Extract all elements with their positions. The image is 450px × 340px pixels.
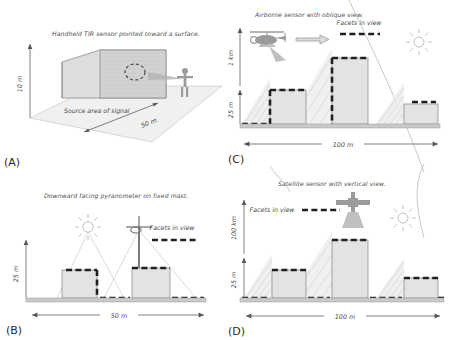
figure-panel-grid: 10 m xyxy=(0,0,450,340)
axis-h-arrow-left-b xyxy=(32,313,37,318)
axis-label-vertical-upper-c: 1 km xyxy=(227,50,235,66)
sun-icon-b xyxy=(75,214,101,240)
building-1-b xyxy=(62,270,97,298)
axis-h-arrow-left-d xyxy=(246,314,251,319)
axis-label-horizontal-d: 100 m xyxy=(335,313,355,321)
panel-title-d: Satellite sensor with vertical view. xyxy=(278,180,386,187)
axis-vertical-arrow-a xyxy=(28,44,33,49)
axis-label-vertical-lower-d: 25 m xyxy=(230,272,238,288)
panel-title-a: Handheld TIR sensor pointed toward a sur… xyxy=(52,30,200,38)
panel-b: Downward facing pyranometer on fixed mas… xyxy=(0,170,228,340)
sun-icon-c xyxy=(406,29,432,55)
legend-label-b: Facets in view xyxy=(150,224,196,231)
building-3-c xyxy=(404,104,438,124)
panel-title-c: Airborne sensor with oblique view. xyxy=(254,11,363,19)
axis-label-horizontal-c: 100 m xyxy=(333,141,353,149)
axis-label-vertical-lower-c: 25 m xyxy=(227,102,235,118)
axis-label-vertical-b: 25 m xyxy=(12,266,20,282)
sun-icon-d xyxy=(390,205,416,231)
legend-label-d: Facets in view xyxy=(250,206,296,213)
panel-tag-d: (D) xyxy=(228,325,245,338)
source-label-line1-a: Source area of signal xyxy=(64,107,130,115)
axis-upper-arrow-c xyxy=(238,28,243,33)
helicopter-icon xyxy=(250,32,286,46)
panel-tag-b: (B) xyxy=(6,324,22,337)
panel-title-b: Downward facing pyranometer on fixed mas… xyxy=(44,192,188,200)
axis-label-vertical-a: 10 m xyxy=(16,76,24,92)
ground-d xyxy=(240,298,444,302)
swoosh-right-icon-d xyxy=(417,164,424,238)
swoosh-left-icon-d xyxy=(270,166,290,192)
building-2-b xyxy=(132,268,170,298)
axis-label-horizontal-b: 50 m xyxy=(111,312,127,320)
panel-a: 10 m xyxy=(0,0,228,172)
axis-h-arrow-right-d xyxy=(435,314,440,319)
flight-arrow-icon xyxy=(296,35,329,44)
axis-lower-arrow-d xyxy=(242,258,247,263)
view-cone-icon-c xyxy=(269,46,286,62)
shadow-1-c xyxy=(242,78,270,124)
axis-upper-arrow-d xyxy=(242,200,247,205)
axis-h-arrow-left-c xyxy=(244,142,249,147)
ground-b xyxy=(26,298,206,302)
satellite-icon xyxy=(336,192,370,212)
ground-c xyxy=(240,124,440,128)
panel-d: Satellite sensor with vertical view. xyxy=(228,170,450,340)
building-2-c xyxy=(332,58,368,124)
building-2-d xyxy=(332,240,368,298)
axis-h-arrow-right-b xyxy=(199,313,204,318)
panel-tag-a: (A) xyxy=(4,156,20,169)
axis-vertical-arrow-b xyxy=(24,240,29,245)
shadow-3-d xyxy=(376,258,404,298)
building-1-c xyxy=(270,90,306,124)
building-3-d xyxy=(404,278,438,298)
axis-h-arrow-right-c xyxy=(433,142,438,147)
shadow-1-d xyxy=(244,254,272,298)
building-1-d xyxy=(272,270,306,298)
axis-lower-arrow-c xyxy=(238,90,243,95)
axis-label-vertical-upper-d: 100 km xyxy=(230,216,238,240)
view-cone-icon-d xyxy=(342,212,364,228)
panel-tag-c: (C) xyxy=(228,153,244,166)
panel-c: Airborne sensor with oblique view. Fac xyxy=(228,0,450,172)
